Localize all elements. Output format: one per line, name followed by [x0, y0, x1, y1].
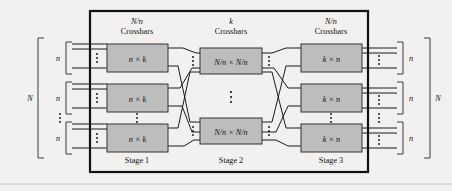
stage1-crossbar-1-label: n × k — [129, 55, 147, 64]
left-between-groups-ellipsis — [59, 113, 61, 123]
stage1-vertical-ellipsis — [136, 113, 138, 123]
left-group-label-2: n — [56, 94, 60, 103]
stage3-vertical-ellipsis — [330, 113, 332, 123]
stage2-crossbar-1[interactable]: N/n × N/n — [200, 48, 262, 74]
stage1-header-kind: Crossbars — [121, 27, 153, 36]
stage3-crossbar-2[interactable]: k × n — [301, 84, 362, 112]
right-group-bracket-3 — [397, 122, 403, 154]
left-outer-bracket — [38, 38, 44, 158]
stage2-header-count: k — [229, 17, 233, 26]
stage1-crossbar-2[interactable]: n × k — [107, 84, 168, 112]
stage1-header-count: N/n — [130, 17, 143, 26]
left-port-ellipsis-2 — [96, 93, 98, 103]
stage1-to-stage2-wires — [168, 48, 200, 146]
stage3-crossbar-3[interactable]: k × n — [301, 124, 362, 152]
stage1-crossbar-1[interactable]: n × k — [107, 44, 168, 72]
stage2-out-ellipsis-1 — [268, 56, 270, 66]
stage1-crossbar-3-label: n × k — [129, 135, 147, 144]
stage3-header-count: N/n — [324, 17, 337, 26]
stage2-crossbar-1-label: N/n × N/n — [213, 58, 247, 67]
left-group-bracket-3 — [66, 122, 72, 154]
stage2-crossbar-2[interactable]: N/n × N/n — [200, 118, 262, 144]
left-group-label-1: n — [56, 54, 60, 63]
stage3-label: Stage 3 — [319, 156, 343, 165]
left-group-bracket-2 — [66, 82, 72, 114]
stage2-header-kind: Crossbars — [215, 27, 247, 36]
right-outer-bracket — [424, 38, 430, 158]
stage1-crossbar-2-label: n × k — [129, 95, 147, 104]
left-group-label-3: n — [56, 134, 60, 143]
stage1-crossbar-3[interactable]: n × k — [107, 124, 168, 152]
stage3-crossbar-1[interactable]: k × n — [301, 44, 362, 72]
stage2-in-ellipsis-1 — [192, 56, 194, 66]
right-between-groups-ellipsis — [378, 113, 380, 123]
stage1-label: Stage 1 — [125, 156, 149, 165]
right-group-bracket-2 — [397, 82, 403, 114]
stage2-to-stage3-wires — [262, 48, 301, 146]
left-port-ellipsis-1 — [96, 53, 98, 63]
left-port-ellipsis-3 — [96, 133, 98, 143]
left-outer-bracket-label: N — [26, 94, 33, 103]
right-group-bracket-1 — [397, 42, 403, 74]
right-port-ellipsis-1 — [378, 55, 380, 65]
stage3-header-kind: Crossbars — [315, 27, 347, 36]
right-group-label-3: n — [409, 134, 413, 143]
stage2-vertical-ellipsis — [230, 91, 232, 103]
right-outer-bracket-label: N — [434, 94, 441, 103]
figure-root: N n n n — [0, 0, 452, 191]
stage3-crossbar-3-label: k × n — [323, 135, 340, 144]
right-group-label-2: n — [409, 94, 413, 103]
stage3-crossbar-1-label: k × n — [323, 55, 340, 64]
left-group-bracket-1 — [66, 42, 72, 74]
stage2-in-ellipsis-2 — [192, 126, 194, 136]
right-group-label-1: n — [409, 54, 413, 63]
stage3-crossbar-2-label: k × n — [323, 95, 340, 104]
stage2-label: Stage 2 — [219, 156, 243, 165]
clos-network-diagram: N n n n — [0, 0, 452, 191]
right-port-ellipsis-3 — [378, 135, 380, 145]
stage2-out-ellipsis-2 — [268, 126, 270, 136]
stage2-crossbar-2-label: N/n × N/n — [213, 128, 247, 137]
right-port-ellipsis-2 — [378, 95, 380, 105]
